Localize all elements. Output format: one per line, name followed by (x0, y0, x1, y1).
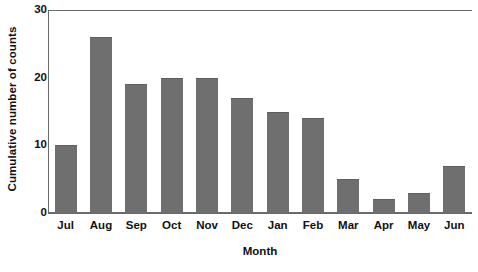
y-axis-title-text: Cumulative number of counts (5, 27, 17, 192)
x-tick-label: Dec (225, 219, 260, 233)
x-tick-label: Feb (295, 219, 330, 233)
bar-group (90, 10, 112, 213)
bar-group (55, 10, 77, 213)
y-tick-label: 20 (21, 72, 47, 84)
y-tick-label: 0 (21, 207, 47, 219)
bar-group (302, 10, 324, 213)
bar-group (337, 10, 359, 213)
bar-group (408, 10, 430, 213)
x-tick-label: Jul (48, 219, 83, 233)
bar-group (125, 10, 147, 213)
x-axis-tick-labels: JulAugSepOctNovDecJanFebMarAprMayJun (48, 219, 472, 237)
bar-aug (90, 37, 112, 213)
y-tick-label: 30 (21, 4, 47, 16)
bar-dec (231, 98, 253, 213)
x-tick-label: Aug (83, 219, 118, 233)
bars-layer (48, 10, 472, 213)
y-tick-label: 10 (21, 139, 47, 151)
bar-jun (443, 166, 465, 213)
bar-apr (373, 199, 395, 213)
x-axis-title: Month (48, 245, 472, 257)
x-tick-label: Apr (366, 219, 401, 233)
bar-jul (55, 145, 77, 213)
bar-group (161, 10, 183, 213)
bar-group (231, 10, 253, 213)
x-tick-label: Mar (331, 219, 366, 233)
bar-group (373, 10, 395, 213)
bar-may (408, 193, 430, 213)
bar-group (196, 10, 218, 213)
bar-oct (161, 78, 183, 213)
y-axis-title: Cumulative number of counts (0, 0, 22, 218)
x-tick-label: Sep (119, 219, 154, 233)
bar-nov (196, 78, 218, 213)
bar-feb (302, 118, 324, 213)
x-tick-label: Nov (189, 219, 224, 233)
bar-group (443, 10, 465, 213)
bar-jan (267, 112, 289, 214)
bar-mar (337, 179, 359, 213)
bar-chart-figure: Cumulative number of counts 0102030 JulA… (0, 0, 478, 272)
x-tick-label: Jan (260, 219, 295, 233)
bar-sep (125, 84, 147, 213)
x-tick-label: Jun (437, 219, 472, 233)
x-tick-label: May (401, 219, 436, 233)
x-tick-label: Oct (154, 219, 189, 233)
bar-group (267, 10, 289, 213)
